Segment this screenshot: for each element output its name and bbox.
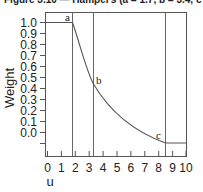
x-tick-label: 4: [100, 161, 107, 175]
x-tick-label: 10: [179, 161, 193, 175]
x-tick-label: 0: [44, 161, 51, 175]
x-axis-tick-labels: 0 1 2 3 4 5 6 7 8 9 10: [44, 161, 193, 175]
x-tick-label: 7: [141, 161, 148, 175]
x-tick-label: 1: [58, 161, 65, 175]
x-tick-label: 3: [86, 161, 93, 175]
x-tick-label: 6: [128, 161, 135, 175]
x-tick-label: 5: [114, 161, 121, 175]
weight-curve: [46, 23, 187, 144]
x-tick-label: 9: [169, 161, 176, 175]
y-axis-tick-labels: 1.0 0.9 0.8 0.7 0.6 0.5 0.4 0.3 0.2 0.1 …: [20, 16, 37, 140]
annotation-c: c: [156, 129, 161, 141]
chart-plot: 1.0 0.9 0.8 0.7 0.6 0.5 0.4 0.3 0.2 0.1 …: [0, 0, 203, 192]
y-axis-label: Weight: [2, 68, 17, 109]
annotation-b: b: [96, 74, 102, 86]
y-axis-ticks: [40, 23, 45, 144]
y-tick-label: 0.0: [20, 126, 37, 140]
annotation-a: a: [65, 11, 70, 23]
x-tick-label: 2: [72, 161, 79, 175]
x-axis-label: u: [46, 174, 53, 189]
x-tick-label: 8: [155, 161, 162, 175]
